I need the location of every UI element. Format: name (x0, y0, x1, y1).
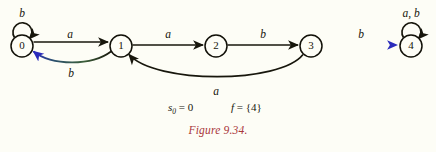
edge-label-0-0: b (19, 7, 25, 19)
start-state-value: 0 (188, 101, 194, 113)
edge-label-4-4: a, b (402, 7, 420, 20)
transition-1-to-0 (34, 52, 112, 63)
edge-label-3-4: b (358, 28, 364, 40)
state-node-3[interactable]: 3 (300, 35, 322, 57)
state-label-0: 0 (19, 39, 25, 51)
state-label-3: 3 (308, 39, 314, 51)
state-node-2[interactable]: 2 (205, 35, 227, 57)
state-label-1: 1 (118, 39, 124, 51)
edge-label-1-0: b (68, 67, 74, 79)
state-label-2: 2 (213, 39, 219, 51)
edge-label-0-1: a (67, 28, 73, 40)
final-state-value: {4} (246, 101, 262, 113)
state-node-0[interactable]: 0 (11, 35, 33, 57)
figure-caption: Figure 9.34. (0, 124, 436, 136)
start-state-equals: = (179, 101, 185, 113)
start-state-subscript: 0 (172, 107, 176, 116)
final-state-equals: = (237, 101, 243, 113)
final-state-symbol: f (231, 101, 234, 113)
state-node-1[interactable]: 1 (110, 35, 132, 57)
figure-container: 0 1 2 3 4 b a b a b a b a, b s0 = 0 (0, 0, 436, 152)
start-state-spec: s0 = 0 (168, 101, 193, 116)
edge-label-3-1: a (213, 85, 219, 97)
edge-label-1-2: a (165, 28, 171, 40)
edge-label-2-3: b (260, 28, 266, 40)
state-label-4: 4 (408, 39, 414, 51)
state-node-4[interactable]: 4 (400, 35, 422, 57)
final-state-spec: f = {4} (231, 101, 262, 113)
transition-3-to-1 (129, 55, 303, 77)
